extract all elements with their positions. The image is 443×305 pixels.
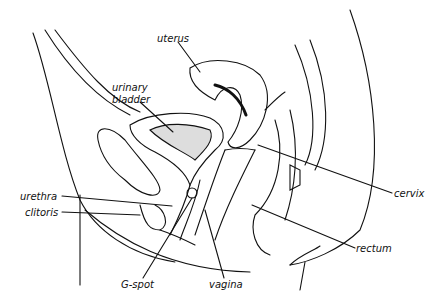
- label-rectum: rectum: [356, 243, 392, 254]
- leader-clitoris: [62, 212, 140, 215]
- diagram-drawing: [0, 0, 443, 305]
- rectum-shape: [253, 120, 280, 255]
- leader-urethra: [62, 196, 172, 206]
- label-vagina: vagina: [209, 279, 243, 290]
- abdomen-contour: [33, 33, 175, 262]
- leader-rectum: [252, 205, 355, 248]
- label-urinary-bladder-line1: urinary: [112, 82, 148, 93]
- label-g-spot: G-spot: [121, 279, 154, 290]
- g-spot-marker: [187, 188, 197, 198]
- label-urethra: urethra: [20, 191, 57, 202]
- leader-uterus: [178, 42, 200, 72]
- label-clitoris: clitoris: [25, 207, 58, 218]
- leader-gspot: [143, 198, 192, 278]
- label-cervix: cervix: [394, 188, 424, 199]
- label-urinary-bladder-line2: bladder: [112, 94, 150, 105]
- label-uterus: uterus: [157, 33, 189, 44]
- anatomy-diagram: uterus urinary bladder urethra clitoris …: [0, 0, 443, 305]
- pubic-bone: [98, 129, 160, 195]
